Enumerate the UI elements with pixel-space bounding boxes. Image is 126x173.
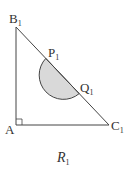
label-q: Q1 xyxy=(80,80,93,97)
hypotenuse-bc xyxy=(16,27,109,125)
label-b: B1 xyxy=(9,11,22,28)
figure-caption: R1 xyxy=(56,150,70,167)
right-angle-marker xyxy=(16,119,22,125)
label-c: C1 xyxy=(111,118,124,135)
label-p: P1 xyxy=(48,45,59,62)
shaded-semicircle xyxy=(39,58,79,99)
label-a: A xyxy=(5,122,15,137)
right-triangle-diagram: B1 A C1 P1 Q1 R1 xyxy=(0,0,126,173)
